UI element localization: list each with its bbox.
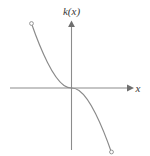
x-axis-label: x (135, 82, 141, 94)
y-axis-arrowhead (68, 21, 75, 28)
graph-figure: k(x) x (0, 0, 150, 156)
curve-end-endpoint-marker (110, 150, 114, 154)
y-axis-label: k(x) (63, 5, 80, 18)
x-axis-arrowhead (127, 85, 134, 92)
curve-start-endpoint-marker (30, 22, 34, 26)
coordinate-plane: k(x) x (0, 0, 150, 156)
